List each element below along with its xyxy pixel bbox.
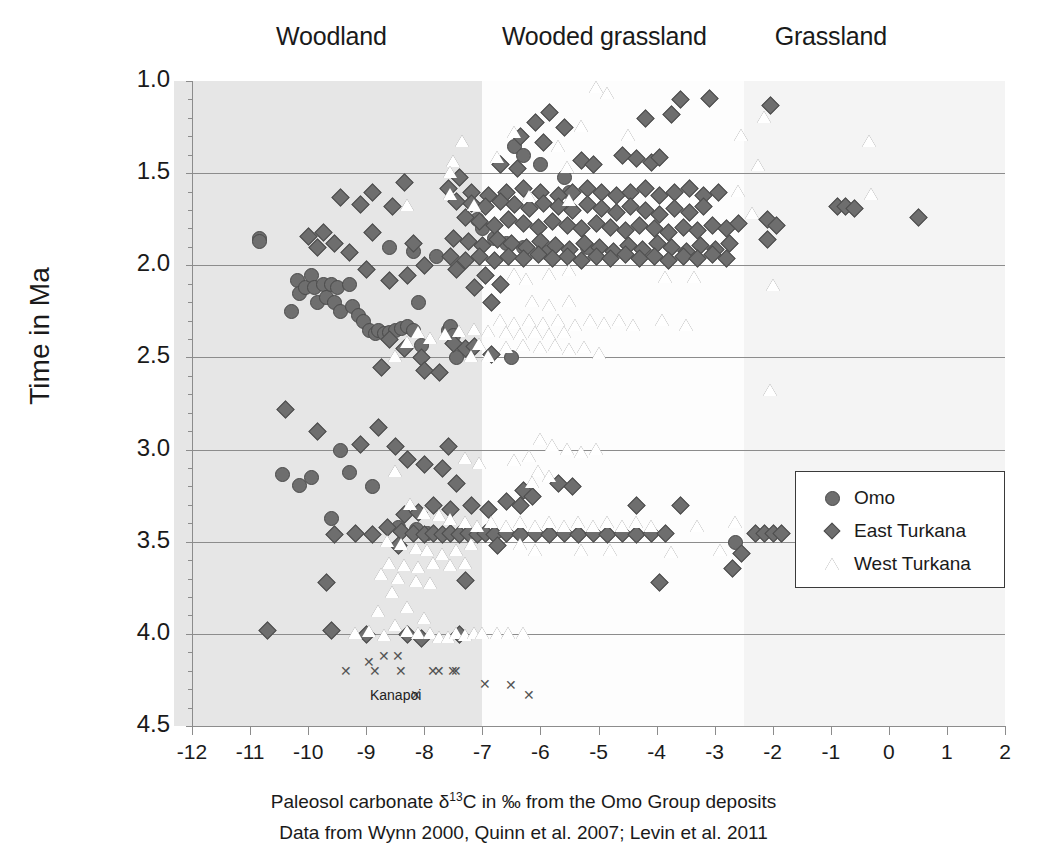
data-point-west-turkana xyxy=(728,516,742,528)
x-axis-tick-label: -7 xyxy=(457,740,507,764)
y-axis-minor-tick xyxy=(188,247,193,248)
y-axis-minor-tick xyxy=(188,597,193,598)
data-point-west-turkana xyxy=(664,546,678,558)
data-point-west-turkana xyxy=(615,520,629,532)
data-point-west-turkana xyxy=(562,343,576,355)
y-axis-line xyxy=(192,81,193,727)
data-point-omo xyxy=(284,304,299,319)
data-point-west-turkana xyxy=(452,325,466,337)
data-point-west-turkana xyxy=(499,341,513,353)
y-axis-minor-tick xyxy=(188,284,193,285)
y-axis-tick xyxy=(186,173,193,174)
data-point-west-turkana xyxy=(507,454,521,466)
data-point-west-turkana xyxy=(484,516,498,528)
data-point-west-turkana xyxy=(374,568,388,580)
data-point-west-turkana xyxy=(516,339,530,351)
x-axis-tick xyxy=(366,727,367,735)
x-axis-tick-label: 0 xyxy=(864,740,914,764)
x-axis-tick xyxy=(1005,727,1006,735)
data-point-west-turkana xyxy=(391,572,405,584)
data-point-west-turkana xyxy=(475,627,489,639)
data-point-west-turkana xyxy=(626,319,640,331)
plot-area: ✕✕✕✕✕✕✕✕✕✕✕✕✕✕ Kanapoi xyxy=(192,81,1005,726)
x-axis-tick-label: -9 xyxy=(341,740,391,764)
data-point-west-turkana xyxy=(464,538,478,550)
y-axis-minor-tick xyxy=(188,708,193,709)
x-axis-tick xyxy=(482,727,483,735)
data-point-west-turkana xyxy=(472,338,486,350)
data-point-west-turkana xyxy=(423,577,437,589)
data-point-west-turkana xyxy=(731,185,745,197)
gridline xyxy=(192,173,1005,174)
y-axis-minor-tick xyxy=(188,615,193,616)
data-point-west-turkana xyxy=(548,339,562,351)
data-point-west-turkana xyxy=(562,264,576,276)
data-point-west-turkana xyxy=(583,314,597,326)
y-axis-tick-label: 4.5 xyxy=(100,710,170,738)
data-point-west-turkana xyxy=(519,273,533,285)
y-axis-minor-tick xyxy=(188,671,193,672)
data-point-west-turkana xyxy=(417,612,431,624)
data-point-west-turkana xyxy=(528,520,542,532)
data-point-west-turkana xyxy=(533,341,547,353)
y-axis-minor-tick xyxy=(188,523,193,524)
data-point-west-turkana xyxy=(713,544,727,556)
data-point-west-turkana xyxy=(577,341,591,353)
data-point-west-turkana xyxy=(443,166,457,178)
y-axis-minor-tick xyxy=(188,560,193,561)
x-axis-tick-label: -8 xyxy=(399,740,449,764)
data-point-west-turkana xyxy=(751,159,765,171)
x-axis-tick xyxy=(599,727,600,735)
x-axis-tick-label: 1 xyxy=(922,740,972,764)
y-axis-tick-label: 1.0 xyxy=(100,65,170,93)
woodland-band-bleed xyxy=(174,81,194,726)
x-axis-tick xyxy=(657,727,658,735)
data-point-west-turkana xyxy=(545,439,559,451)
legend[interactable]: Omo East Turkana West Turkana xyxy=(795,471,1005,588)
x-axis-tick-label: -3 xyxy=(690,740,740,764)
data-point-west-turkana xyxy=(371,605,385,617)
legend-item-omo[interactable]: Omo xyxy=(824,488,895,508)
y-axis-title: Time in Ma xyxy=(24,176,56,496)
data-point-kanapoi: ✕ xyxy=(479,678,491,690)
data-point-west-turkana xyxy=(560,161,574,173)
y-axis-tick xyxy=(186,634,193,635)
y-axis-minor-tick xyxy=(188,652,193,653)
x-axis-tick-label: -11 xyxy=(225,740,275,764)
east-turkana-diamond-icon xyxy=(824,523,840,539)
data-point-west-turkana xyxy=(380,535,394,547)
data-point-west-turkana xyxy=(542,268,556,280)
data-point-west-turkana xyxy=(385,586,399,598)
legend-item-west-turkana[interactable]: West Turkana xyxy=(824,554,971,574)
biome-label-grassland: Grassland xyxy=(775,22,887,51)
x-axis-tick xyxy=(889,727,890,735)
data-point-west-turkana xyxy=(481,350,495,362)
data-point-west-turkana xyxy=(766,279,780,291)
data-point-west-turkana xyxy=(864,188,878,200)
data-point-west-turkana xyxy=(542,516,556,528)
data-point-west-turkana xyxy=(571,516,585,528)
data-point-west-turkana xyxy=(679,319,693,331)
data-point-west-turkana xyxy=(542,470,556,482)
data-point-west-turkana xyxy=(574,120,588,132)
x-axis-tick-label: -4 xyxy=(632,740,682,764)
legend-item-east-turkana[interactable]: East Turkana xyxy=(824,521,966,541)
data-point-west-turkana xyxy=(621,129,635,141)
data-point-west-turkana xyxy=(560,443,574,455)
data-point-west-turkana xyxy=(690,520,704,532)
data-point-west-turkana xyxy=(629,516,643,528)
gridline xyxy=(192,634,1005,635)
y-axis-tick xyxy=(186,81,193,82)
y-axis-minor-tick xyxy=(188,376,193,377)
x-axis-tick xyxy=(308,727,309,735)
data-point-kanapoi: ✕ xyxy=(378,650,390,662)
data-point-west-turkana xyxy=(400,336,414,348)
x-axis-tick xyxy=(831,727,832,735)
x-axis-tick-label: -1 xyxy=(806,740,856,764)
data-point-west-turkana xyxy=(443,559,457,571)
data-point-west-turkana xyxy=(420,544,434,556)
legend-label-west-turkana: West Turkana xyxy=(854,553,971,575)
data-point-west-turkana xyxy=(562,194,576,206)
data-point-west-turkana xyxy=(525,476,539,488)
data-point-west-turkana xyxy=(464,350,478,362)
